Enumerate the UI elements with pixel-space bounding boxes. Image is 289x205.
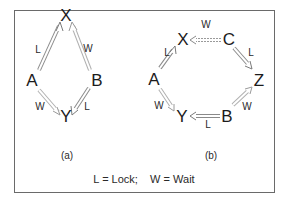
caption-a: (a) [61, 151, 73, 161]
node-a-a: A [26, 72, 37, 89]
edge-label-a-ax: L [35, 45, 41, 55]
node-a-x: X [60, 7, 71, 24]
caption-b: (b) [205, 151, 217, 161]
edge-label-b-cx: W [201, 20, 210, 30]
panel-a-arrows [39, 22, 90, 115]
edge-label-b-ay: W [154, 101, 163, 111]
edge-label-a-bx: W [83, 44, 92, 54]
edge-label-b-ax: L [164, 48, 170, 58]
node-b-y: Y [176, 108, 187, 125]
panel-b-arrows [160, 36, 252, 120]
node-b-x: X [177, 31, 188, 48]
node-b-z: Z [254, 72, 264, 89]
edge-label-b-by: L [205, 120, 211, 130]
legend: L = Lock; W = Wait [93, 174, 194, 185]
edge-label-a-ay: W [35, 102, 44, 112]
edge-label-b-cz: L [248, 48, 254, 58]
node-b-c: C [223, 31, 235, 48]
edge-label-a-by: L [84, 102, 90, 112]
node-b-a: A [148, 71, 159, 88]
arrow-c-to-x-wait [190, 36, 221, 44]
node-a-b: B [91, 72, 102, 89]
edge-label-b-bz: W [242, 102, 251, 112]
node-b-b: B [221, 108, 232, 125]
node-a-y: Y [60, 108, 71, 125]
arrow-a-to-x-lock [39, 22, 63, 70]
